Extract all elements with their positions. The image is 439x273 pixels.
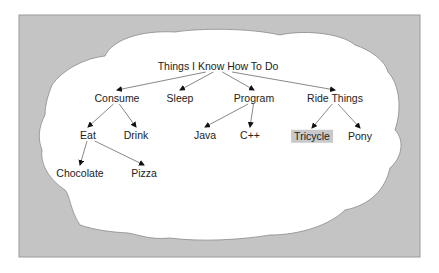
- node-cpp: C++: [240, 130, 260, 141]
- diagram-canvas: [0, 0, 439, 273]
- node-pony: Pony: [348, 131, 372, 142]
- node-java: Java: [194, 130, 216, 141]
- node-tricycle: Tricycle: [291, 130, 333, 143]
- node-root: Things I Know How To Do: [158, 61, 279, 72]
- node-program: Program: [234, 93, 274, 104]
- node-pizza: Pizza: [131, 168, 157, 179]
- node-sleep: Sleep: [167, 93, 194, 104]
- node-ride: Ride Things: [307, 93, 363, 104]
- node-chocolate: Chocolate: [56, 168, 103, 179]
- node-drink: Drink: [124, 130, 149, 141]
- node-eat: Eat: [80, 130, 96, 141]
- node-consume: Consume: [95, 93, 140, 104]
